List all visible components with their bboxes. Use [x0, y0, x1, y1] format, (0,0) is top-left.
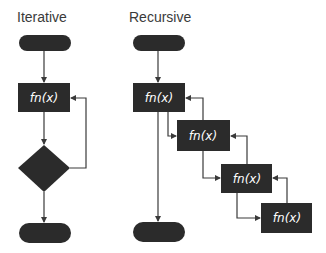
iterative-loop-back-arrow	[70, 98, 86, 168]
recursive-end-terminal	[133, 222, 185, 242]
iterative-process-label: fn(x)	[30, 91, 58, 105]
recursive-call-box-2: fn(x)	[177, 120, 230, 151]
iterative-flowchart: fn(x)	[18, 35, 86, 243]
recursive-call4-return-arrow	[273, 178, 287, 203]
recursive-call-label-2: fn(x)	[189, 129, 217, 143]
recursive-call3-to-call4-arrow	[237, 193, 260, 218]
recursive-start-terminal	[133, 35, 185, 51]
recursive-call-box-4: fn(x)	[261, 203, 312, 233]
recursive-call-label-4: fn(x)	[273, 211, 301, 225]
recursive-call-label-1: fn(x)	[145, 91, 173, 105]
recursive-call-label-3: fn(x)	[233, 172, 261, 186]
recursive-call2-to-call3-arrow	[203, 151, 220, 178]
iterative-start-terminal	[19, 35, 71, 51]
iterative-end-terminal	[19, 223, 71, 243]
recursive-call-box-1: fn(x)	[133, 83, 185, 112]
recursive-call-box-3: fn(x)	[221, 164, 272, 193]
recursive-call2-return-arrow	[186, 98, 203, 120]
iterative-decision-diamond	[18, 145, 70, 192]
flowchart-canvas: fn(x) fn(x) fn(x) f	[0, 0, 326, 253]
recursive-call3-return-arrow	[231, 136, 247, 164]
recursive-call1-to-call2-arrow	[168, 112, 176, 136]
recursive-flowchart: fn(x) fn(x) fn(x) fn(x)	[133, 35, 312, 242]
iterative-process-box: fn(x)	[18, 83, 70, 112]
